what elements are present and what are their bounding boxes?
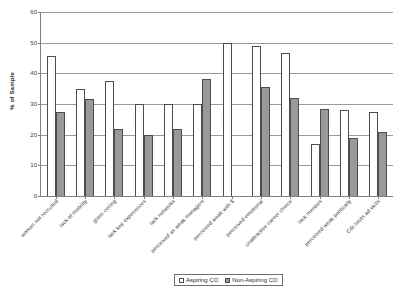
bar-non-aspiring [378, 132, 387, 196]
legend-swatch-non-aspiring [225, 278, 230, 283]
bar-group [334, 12, 363, 196]
y-tick-label: 30 [30, 101, 37, 107]
bar-non-aspiring [202, 79, 211, 196]
legend-entry: Non-Aspiring CO [225, 277, 277, 283]
bar-aspiring [47, 56, 56, 196]
y-tick-label: 50 [30, 40, 37, 46]
bar-group [188, 12, 217, 196]
bar-aspiring [369, 112, 378, 196]
bar-group [100, 12, 129, 196]
y-tick-label: 40 [30, 70, 37, 76]
legend-label: Non-Aspiring CO [232, 277, 277, 283]
legend-entry: Aspiring CO [179, 277, 218, 283]
chart-legend: Aspiring CONon-Aspiring CO [174, 274, 283, 286]
bar-chart: % of Sample 0102030405060 women not recr… [0, 0, 418, 296]
bar-group [217, 12, 246, 196]
bar-non-aspiring [114, 129, 123, 196]
bar-group [276, 12, 305, 196]
bar-group [246, 12, 275, 196]
x-axis-label: women not recruited [19, 198, 59, 238]
y-axis-title: % of Sample [9, 56, 15, 126]
bar-non-aspiring [320, 109, 329, 196]
x-axis-label: glass ceiling [92, 198, 118, 224]
bar-group [305, 12, 334, 196]
bar-group [70, 12, 99, 196]
legend-label: Aspiring CO [186, 277, 218, 283]
bar-non-aspiring [56, 112, 65, 196]
bar-non-aspiring [144, 135, 153, 196]
y-tick-mark [38, 196, 41, 197]
bar-group [41, 12, 70, 196]
bar-aspiring [311, 144, 320, 196]
bars-layer [41, 12, 393, 196]
x-axis-label: lack mentors [296, 198, 323, 225]
x-axis-label: lack networks [148, 198, 176, 226]
x-axis-labels: women not recruitedlack of mobilityglass… [40, 198, 392, 268]
bar-non-aspiring [290, 98, 299, 196]
y-tick-label: 10 [30, 162, 37, 168]
bar-aspiring [76, 89, 85, 196]
x-axis-label: perceived as weak managers [150, 198, 206, 254]
y-tick-label: 60 [30, 9, 37, 15]
bar-non-aspiring [173, 129, 182, 196]
bar-non-aspiring [261, 87, 270, 196]
bar-group [129, 12, 158, 196]
bar-aspiring [193, 104, 202, 196]
legend-swatch-aspiring [179, 278, 184, 283]
x-axis-label: lack of mobility [58, 198, 88, 228]
bar-non-aspiring [349, 138, 358, 196]
bar-aspiring [164, 104, 173, 196]
y-tick-label: 20 [30, 132, 37, 138]
bar-aspiring [252, 46, 261, 196]
bar-aspiring [281, 53, 290, 196]
plot-area: 0102030405060 [40, 12, 393, 197]
y-tick-label: 0 [34, 193, 37, 199]
bar-non-aspiring [85, 99, 94, 196]
bar-aspiring [340, 110, 349, 196]
bar-group [158, 12, 187, 196]
bar-aspiring [135, 104, 144, 196]
bar-aspiring [105, 81, 114, 196]
bar-group [364, 12, 393, 196]
bar-aspiring [223, 43, 232, 196]
